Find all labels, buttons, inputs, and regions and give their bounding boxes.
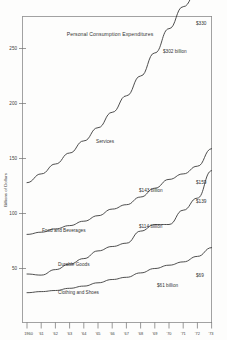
annotation-clothing-mid: $61 billion xyxy=(157,283,179,288)
x-tick-label-1969: '69 xyxy=(152,331,157,336)
x-tick-label-1971: '71 xyxy=(181,331,186,336)
y-tick-label-250: 250 xyxy=(9,46,17,51)
line-chart: 50 100 150 200 250 Billions of Dollars xyxy=(0,0,227,340)
annotation-services-end: $330 xyxy=(196,21,207,26)
x-tick-label-1972: '72 xyxy=(195,331,200,336)
series-label-durable-goods: Durable Goods xyxy=(58,262,90,267)
series-group xyxy=(27,0,212,293)
series-label-food-and-beverages: Food and Beverages xyxy=(42,228,86,233)
series-label-services: Services xyxy=(96,139,115,144)
y-tick-label-150: 150 xyxy=(9,156,17,161)
annotation-durable-end: $139 xyxy=(196,199,207,204)
x-tick-label-1961: '61 xyxy=(39,331,44,336)
annotation-food-end: $159 xyxy=(196,180,207,185)
x-tick-label-1973: '73 xyxy=(208,331,213,336)
x-tick-label-1963: '63 xyxy=(67,331,72,336)
y-tick-label-50: 50 xyxy=(12,266,18,271)
chart-title: Personal Consumption Expenditures xyxy=(67,31,154,37)
series-line-food-and-beverages xyxy=(27,149,212,235)
series-line-clothing-and-shoes xyxy=(27,248,212,293)
x-tick-label-1966: '66 xyxy=(110,331,115,336)
annotation-food-mid: $143 billion xyxy=(139,188,163,193)
x-tick-label-1960: 1960 xyxy=(24,331,33,336)
y-axis-title: Billions of Dollars xyxy=(3,172,8,206)
y-tick-label-200: 200 xyxy=(9,101,17,106)
annotation-durable-mid: $114 billion xyxy=(139,224,163,229)
x-tick-label-1970: '70 xyxy=(166,331,172,336)
annotation-services-mid: $302 billion xyxy=(163,49,187,54)
plot-frame xyxy=(23,16,213,323)
annotation-clothing-end: $69 xyxy=(196,273,204,278)
x-tick-label-1962: '62 xyxy=(53,331,58,336)
x-tick-label-1967: '67 xyxy=(124,331,129,336)
y-axis-tick-labels: 50 100 150 200 250 xyxy=(9,46,17,271)
series-line-durable-goods xyxy=(27,171,212,276)
y-tick-label-100: 100 xyxy=(9,211,17,216)
chart-figure: 50 100 150 200 250 Billions of Dollars xyxy=(0,0,227,340)
x-axis-ticks xyxy=(27,323,212,329)
x-tick-label-1968: '68 xyxy=(138,331,143,336)
series-label-clothing-and-shoes: Clothing and Shoes xyxy=(58,290,100,295)
x-axis-tick-labels: 1960 '61 '62 '63 '64 '65 '66 '67 '68 '69… xyxy=(24,331,213,336)
x-tick-label-1964: '64 xyxy=(81,331,87,336)
series-line-services xyxy=(27,0,212,183)
x-tick-label-1965: '65 xyxy=(95,331,100,336)
